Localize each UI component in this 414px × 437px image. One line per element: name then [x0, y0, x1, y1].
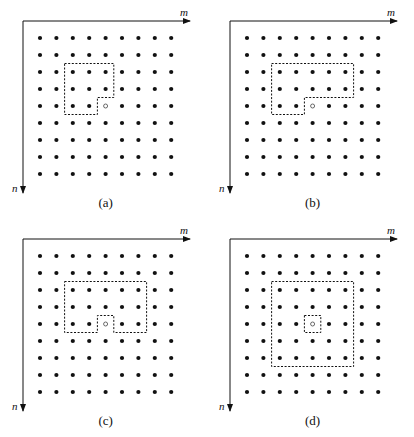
lattice-point [261, 271, 265, 275]
lattice-point [120, 288, 124, 292]
lattice-point [343, 254, 347, 258]
current-point [104, 104, 108, 108]
lattice-point [54, 356, 58, 360]
lattice-point [261, 322, 265, 326]
lattice-point [136, 373, 140, 377]
lattice-point [169, 87, 173, 91]
lattice-point [136, 155, 140, 159]
lattice-point [360, 322, 364, 326]
lattice-point [360, 356, 364, 360]
lattice-point [87, 254, 91, 258]
lattice-point [245, 271, 249, 275]
lattice-point [278, 36, 282, 40]
lattice-point [38, 356, 42, 360]
lattice-diagram [0, 218, 207, 436]
lattice-point [104, 87, 108, 91]
lattice-point [169, 155, 173, 159]
lattice-point [136, 271, 140, 275]
lattice-point [87, 322, 91, 326]
lattice-point [153, 254, 157, 258]
lattice-point [245, 339, 249, 343]
lattice-point [104, 305, 108, 309]
lattice-point [327, 288, 331, 292]
lattice-point [360, 254, 364, 258]
lattice-point [54, 172, 58, 176]
lattice-point [104, 390, 108, 394]
lattice-point [376, 390, 380, 394]
lattice-point [38, 36, 42, 40]
lattice-point [261, 254, 265, 258]
lattice-point [261, 87, 265, 91]
lattice-point [54, 155, 58, 159]
lattice-point [376, 373, 380, 377]
lattice-point [278, 288, 282, 292]
lattice-point [311, 53, 315, 57]
lattice-point [245, 356, 249, 360]
lattice-point [136, 339, 140, 343]
lattice-diagram [0, 0, 207, 218]
lattice-point [343, 155, 347, 159]
lattice-point [153, 271, 157, 275]
lattice-point [311, 271, 315, 275]
lattice-point [87, 36, 91, 40]
lattice-point [261, 36, 265, 40]
lattice-point [104, 288, 108, 292]
lattice-point [376, 172, 380, 176]
lattice-point [360, 70, 364, 74]
lattice-point [153, 53, 157, 57]
lattice-point [311, 155, 315, 159]
lattice-point [327, 373, 331, 377]
lattice-point [104, 339, 108, 343]
lattice-point [360, 172, 364, 176]
lattice-point [278, 339, 282, 343]
lattice-point [38, 271, 42, 275]
lattice-point [278, 155, 282, 159]
lattice-point [38, 288, 42, 292]
lattice-point [54, 305, 58, 309]
lattice-point [294, 87, 298, 91]
lattice-point [71, 70, 75, 74]
lattice-point [327, 339, 331, 343]
lattice-point [327, 138, 331, 142]
lattice-point [104, 356, 108, 360]
lattice-point [104, 36, 108, 40]
lattice-point [153, 356, 157, 360]
lattice-point [87, 155, 91, 159]
lattice-point [87, 121, 91, 125]
lattice-point [376, 322, 380, 326]
lattice-point [376, 305, 380, 309]
lattice-point [360, 373, 364, 377]
panel-caption: (a) [86, 195, 126, 211]
lattice-point [71, 305, 75, 309]
lattice-point [120, 87, 124, 91]
lattice-point [245, 138, 249, 142]
lattice-point [169, 288, 173, 292]
lattice-point [87, 339, 91, 343]
lattice-point [153, 288, 157, 292]
lattice-point [294, 339, 298, 343]
lattice-point [360, 104, 364, 108]
lattice-point [376, 271, 380, 275]
lattice-point [376, 356, 380, 360]
lattice-point [120, 271, 124, 275]
lattice-point [136, 104, 140, 108]
lattice-point [54, 271, 58, 275]
lattice-point [153, 138, 157, 142]
lattice-point [120, 138, 124, 142]
lattice-point [360, 121, 364, 125]
lattice-point [376, 339, 380, 343]
lattice-point [169, 36, 173, 40]
lattice-point [360, 87, 364, 91]
lattice-point [245, 373, 249, 377]
lattice-point [71, 390, 75, 394]
n-axis-label: n [12, 400, 18, 412]
lattice-point [360, 305, 364, 309]
lattice-point [87, 104, 91, 108]
lattice-point [38, 339, 42, 343]
lattice-point [153, 104, 157, 108]
lattice-point [376, 53, 380, 57]
lattice-point [327, 87, 331, 91]
lattice-point [120, 121, 124, 125]
lattice-point [327, 254, 331, 258]
lattice-point [376, 288, 380, 292]
